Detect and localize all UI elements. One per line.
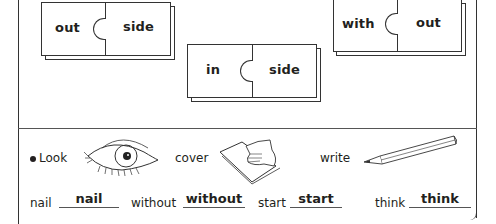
spelling-answer[interactable]: nail [59, 192, 119, 208]
spelling-prompt: think [375, 196, 405, 210]
instruction-write: write [320, 151, 350, 165]
spelling-prompt: without [131, 196, 176, 210]
spelling-answer[interactable]: without [183, 192, 245, 208]
puzzle-left-word: with [342, 16, 375, 31]
spelling-answer[interactable]: think [409, 192, 471, 208]
eye-icon [82, 134, 162, 182]
puzzle-right-word: out [416, 15, 441, 30]
spelling-prompt: start [258, 196, 286, 210]
puzzle-card-inside: in side [187, 44, 321, 102]
instruction-label: Look [39, 151, 67, 165]
puzzle-left-word: out [55, 20, 80, 35]
hand-covering-paper-icon [218, 136, 298, 186]
spelling-prompt: nail [30, 196, 52, 210]
instruction-cover: cover [175, 151, 208, 165]
frame-right-border [476, 0, 477, 218]
puzzle-card-outside: out side [41, 2, 174, 60]
puzzle-left-word: in [206, 62, 220, 77]
puzzle-right-word: side [123, 19, 154, 34]
pencil-icon [362, 132, 462, 168]
instruction-label: write [320, 151, 350, 165]
bullet-icon [30, 156, 36, 162]
puzzle-right-word: side [269, 62, 300, 77]
puzzle-card-without: with out [333, 0, 465, 56]
section-divider [18, 128, 477, 129]
instruction-label: cover [175, 151, 208, 165]
instruction-look: Look [30, 151, 67, 165]
frame-left-border [18, 0, 19, 224]
spelling-answer[interactable]: start [290, 192, 342, 208]
